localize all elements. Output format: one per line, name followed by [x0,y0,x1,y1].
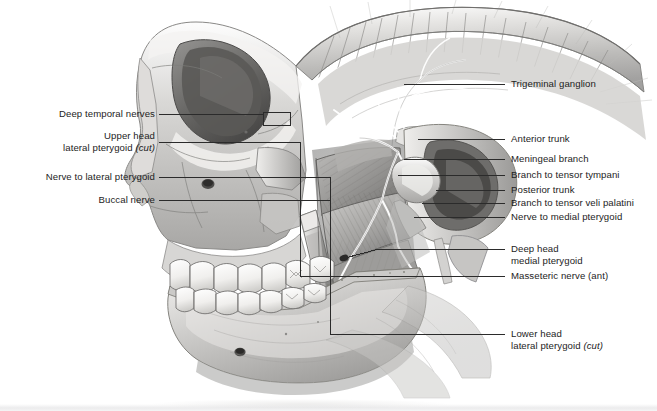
label-upper-head-line1: Upper head [104,130,155,141]
label-trigeminal-ganglion: Trigeminal ganglion [511,78,596,90]
label-branch-to-tensor-veli-palatini: Branch to tensor veli palatini [511,197,634,209]
label-nerve-to-lateral-pterygoid-text: Nerve to lateral pterygoid [46,171,155,182]
anatomical-figure: Deep temporal nerves Upper head lateral … [0,0,657,411]
label-meningeal-branch-text: Meningeal branch [511,153,589,164]
temporal-bone-and-ear [386,124,517,284]
label-posterior-trunk-text: Posterior trunk [511,184,575,195]
label-lower-head-line2: lateral pterygoid [511,340,583,351]
label-trigeminal-ganglion-text: Trigeminal ganglion [511,78,596,89]
label-lower-head-lateral-pterygoid: Lower head lateral pterygoid (cut) [511,328,603,351]
label-anterior-trunk: Anterior trunk [511,133,570,145]
label-deep-head-medial-pterygoid: Deep head medial pterygoid [511,243,583,266]
label-upper-head-cut: (cut) [135,142,155,153]
label-lower-head-line1: Lower head [511,328,562,339]
label-upper-head-line2: lateral pterygoid [63,142,135,153]
label-branch-to-tensor-tympani-text: Branch to tensor tympani [511,169,620,180]
label-nerve-to-medial-pterygoid: Nerve to medial pterygoid [511,211,622,223]
label-masseteric-nerve-ant-text: Masseteric nerve (ant) [511,270,608,281]
label-masseteric-nerve-ant: Masseteric nerve (ant) [511,270,608,282]
label-deep-head-line2: medial pterygoid [511,255,583,266]
label-posterior-trunk: Posterior trunk [511,184,575,196]
label-nerve-to-medial-pterygoid-text: Nerve to medial pterygoid [511,211,622,222]
label-branch-to-tensor-tympani: Branch to tensor tympani [511,169,620,181]
label-branch-to-tensor-veli-palatini-text: Branch to tensor veli palatini [511,197,634,208]
bottom-edge-strip [0,404,657,411]
label-lower-head-cut: (cut) [583,340,603,351]
label-meningeal-branch: Meningeal branch [511,153,589,165]
label-deep-temporal-nerves-text: Deep temporal nerves [59,108,155,119]
label-upper-head-lateral-pterygoid: Upper head lateral pterygoid (cut) [0,130,155,153]
label-deep-temporal-nerves: Deep temporal nerves [0,108,155,120]
label-nerve-to-lateral-pterygoid: Nerve to lateral pterygoid [0,171,155,183]
label-buccal-nerve-text: Buccal nerve [99,194,155,205]
label-anterior-trunk-text: Anterior trunk [511,133,570,144]
label-deep-head-line1: Deep head [511,243,559,254]
label-buccal-nerve: Buccal nerve [0,194,155,206]
facial-skeleton [125,22,306,288]
